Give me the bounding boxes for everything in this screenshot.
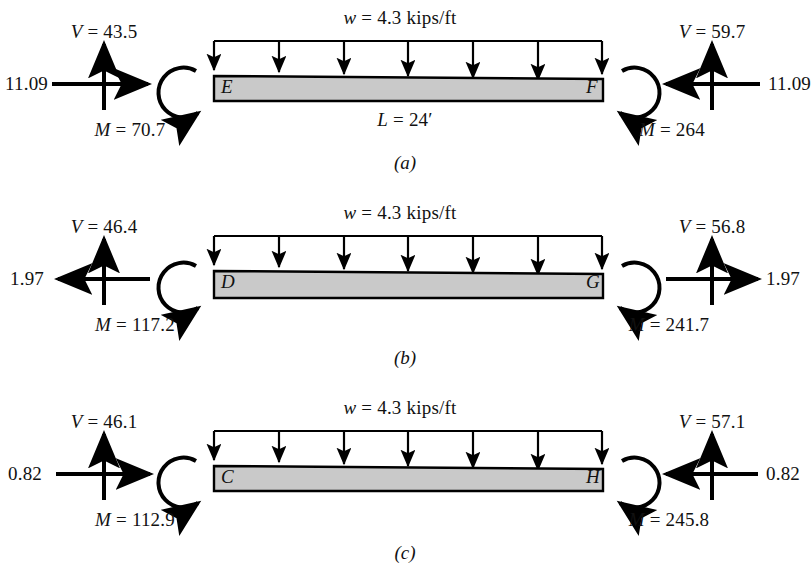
right-axial-label-c: 0.82 bbox=[766, 464, 800, 483]
free-body-diagram-panel-a: w = 4.3 kips/ft L = 24′ V = 43.5 11.09 M… bbox=[0, 0, 811, 195]
right-axial-label-a: 11.09 bbox=[768, 74, 811, 93]
figure-root: w = 4.3 kips/ft L = 24′ V = 43.5 11.09 M… bbox=[0, 0, 811, 585]
left-moment-label-c: M = 112.9 bbox=[95, 510, 175, 529]
left-force-cross-a bbox=[52, 44, 148, 110]
beam-member-a bbox=[214, 76, 603, 101]
right-shear-label-a: V = 59.7 bbox=[679, 22, 746, 41]
right-node-letter-a: F bbox=[586, 76, 598, 98]
right-moment-label-c: M = 245.8 bbox=[629, 510, 710, 529]
right-moment-arc-a bbox=[620, 68, 660, 118]
free-body-diagram-panel-b: w = 4.3 kips/ft V = 46.4 1.97 M = 117.2 … bbox=[0, 195, 811, 390]
distributed-load-c bbox=[214, 431, 602, 470]
left-shear-label-c: V = 46.1 bbox=[71, 412, 138, 431]
distributed-load-label-a: w = 4.3 kips/ft bbox=[344, 8, 457, 27]
right-shear-label-b: V = 56.8 bbox=[679, 217, 746, 236]
right-force-cross-b bbox=[666, 239, 758, 305]
left-force-cross-c bbox=[56, 434, 150, 500]
distributed-load-label-c: w = 4.3 kips/ft bbox=[344, 398, 457, 417]
beam-member-c bbox=[214, 466, 603, 491]
left-axial-label-b: 1.97 bbox=[10, 269, 44, 288]
left-node-letter-b: D bbox=[221, 271, 235, 293]
free-body-diagram-panel-c: w = 4.3 kips/ft V = 46.1 0.82 M = 112.9 … bbox=[0, 390, 811, 585]
right-shear-label-c: V = 57.1 bbox=[679, 412, 746, 431]
panel-caption-a: (a) bbox=[394, 152, 416, 174]
right-node-letter-b: G bbox=[586, 271, 600, 293]
right-moment-label-b: M = 241.7 bbox=[629, 315, 710, 334]
beam-member-b bbox=[214, 271, 603, 298]
distributed-load-label-b: w = 4.3 kips/ft bbox=[344, 203, 457, 222]
left-moment-arc-a bbox=[158, 68, 198, 118]
left-axial-label-a: 11.09 bbox=[5, 74, 48, 93]
span-length-label-a: L = 24′ bbox=[377, 110, 432, 129]
right-force-cross-a bbox=[666, 44, 760, 110]
left-moment-label-a: M = 70.7 bbox=[95, 120, 166, 139]
distributed-load-a bbox=[214, 41, 602, 80]
right-moment-arc-b bbox=[620, 263, 660, 313]
left-moment-label-b: M = 117.2 bbox=[95, 315, 175, 334]
left-shear-label-b: V = 46.4 bbox=[71, 217, 138, 236]
left-moment-arc-c bbox=[158, 458, 198, 508]
right-moment-arc-c bbox=[620, 458, 660, 508]
left-node-letter-c: C bbox=[221, 466, 234, 488]
left-moment-arc-b bbox=[158, 263, 198, 313]
distributed-load-b bbox=[214, 236, 602, 275]
panel-caption-b: (b) bbox=[394, 347, 416, 369]
left-axial-label-c: 0.82 bbox=[8, 464, 42, 483]
panel-caption-c: (c) bbox=[394, 542, 415, 564]
right-node-letter-c: H bbox=[586, 466, 600, 488]
right-moment-label-a: M = 264 bbox=[639, 120, 705, 139]
right-axial-label-b: 1.97 bbox=[766, 269, 800, 288]
right-force-cross-c bbox=[666, 434, 758, 500]
left-shear-label-a: V = 43.5 bbox=[71, 22, 138, 41]
left-force-cross-b bbox=[58, 239, 150, 305]
left-node-letter-a: E bbox=[221, 76, 233, 98]
